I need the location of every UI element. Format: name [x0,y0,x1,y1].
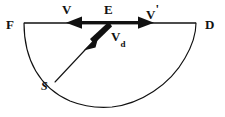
label-point-f: F [6,18,14,31]
label-vector-v-prime-mark: ' [155,1,159,16]
label-vector-vd-subscript: d [120,39,125,49]
vector-v-left-shaft [78,21,110,24]
label-vector-v-prime-base: V [146,7,155,22]
label-point-e: E [104,3,113,16]
diagram-canvas [0,0,225,117]
vector-v-left-arrowhead [66,17,82,29]
figure-container: F D E S V V' Vd [0,0,225,117]
label-point-d: D [205,18,214,31]
vector-v-prime-shaft [110,21,140,24]
label-vector-vd-base: V [111,29,120,44]
label-point-s: S [41,80,48,92]
label-vector-vd: Vd [111,30,125,47]
label-vector-v-prime: V' [146,3,159,21]
vector-vd-shaft [90,22,112,45]
semicircle-arc [24,23,196,107]
vector-vd-drift [84,22,113,51]
label-vector-v: V [62,3,71,16]
